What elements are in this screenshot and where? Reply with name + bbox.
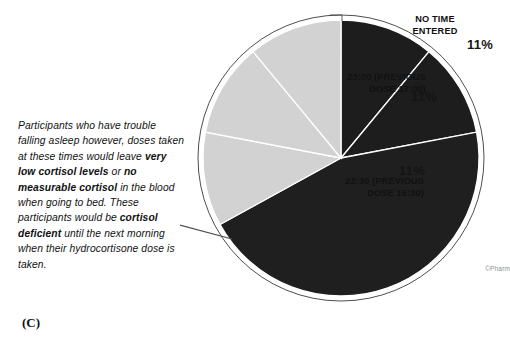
- watermark-text: ©Pharmanet: [485, 265, 510, 272]
- caption-paragraph: Participants who have trouble falling as…: [18, 118, 186, 272]
- pie-chart-svg: [180, 0, 510, 343]
- slice-label-no-time-entered: NO TIME ENTERED: [404, 14, 466, 37]
- slice-percent-22-30: 11%: [399, 163, 425, 178]
- figure-letter: (C): [22, 315, 40, 331]
- slice-percent-23-00: 11%: [411, 89, 437, 104]
- caption-text: or: [109, 166, 124, 177]
- pie-chart: 13:00 16:00 18:00 NO TIME ENTERED 23:00 …: [180, 0, 510, 343]
- pie-slices: [203, 20, 479, 296]
- slice-label-22-30: 22:30 (PREVIOUS DOSE 15:30): [332, 176, 424, 199]
- slice-percent-no-time-entered: 11%: [467, 37, 493, 52]
- figure-caption-block: Participants who have trouble falling as…: [18, 118, 186, 272]
